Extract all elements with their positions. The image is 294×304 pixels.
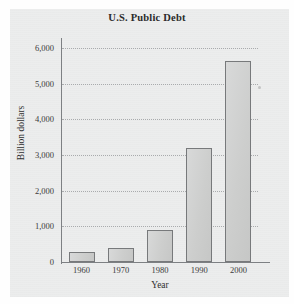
bar-slot xyxy=(180,48,219,262)
bar-1990 xyxy=(186,148,212,262)
chart-title: U.S. Public Debt xyxy=(0,12,294,23)
y-axis-tick-label: 6,000 xyxy=(35,43,54,53)
bar-slot xyxy=(62,48,101,262)
y-axis-tick-labels: 01,0002,0003,0004,0005,0006,000 xyxy=(0,48,58,262)
y-axis-tick-label: 5,000 xyxy=(35,79,54,89)
y-axis-title: Billion dollars xyxy=(16,73,26,193)
plot-area xyxy=(62,48,258,262)
y-axis-tick-label: 0 xyxy=(50,257,54,267)
chart-screenshot: U.S. Public Debt 01,0002,0003,0004,0005,… xyxy=(0,0,294,304)
x-axis-tick-label: 1960 xyxy=(62,265,101,275)
x-axis-tick-label: 2000 xyxy=(219,265,258,275)
bar-slot xyxy=(101,48,140,262)
x-axis-tick-label: 1970 xyxy=(101,265,140,275)
bar-2000 xyxy=(225,61,251,262)
bar-slot xyxy=(219,48,258,262)
bar-series xyxy=(62,48,258,262)
y-axis-tick-label: 4,000 xyxy=(35,114,54,124)
x-axis-tick-labels: 19601970198019902000 xyxy=(62,265,258,275)
bar-1970 xyxy=(108,248,134,262)
x-axis-tick-label: 1990 xyxy=(180,265,219,275)
x-axis-title: Year xyxy=(62,280,258,290)
y-axis-tick-label: 3,000 xyxy=(35,150,54,160)
bar-slot xyxy=(140,48,179,262)
scan-artifact-speck xyxy=(258,86,261,89)
x-axis-tick-label: 1980 xyxy=(140,265,179,275)
x-axis-line xyxy=(62,262,270,263)
bar-1960 xyxy=(69,252,95,262)
bar-1980 xyxy=(147,230,173,262)
y-axis-tick-label: 1,000 xyxy=(35,221,54,231)
y-axis-tick-label: 2,000 xyxy=(35,186,54,196)
